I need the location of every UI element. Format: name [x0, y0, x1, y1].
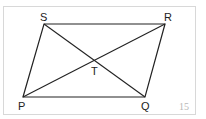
parallelogram-diagram: S R T P Q 15: [0, 0, 206, 119]
diagonal-SQ: [44, 24, 145, 97]
vertex-label-S: S: [40, 11, 47, 23]
intersection-label-T: T: [91, 65, 98, 77]
vertex-label-R: R: [164, 11, 172, 23]
figure-number: 15: [179, 101, 189, 112]
vertex-label-P: P: [18, 100, 25, 112]
vertex-label-Q: Q: [141, 100, 150, 112]
